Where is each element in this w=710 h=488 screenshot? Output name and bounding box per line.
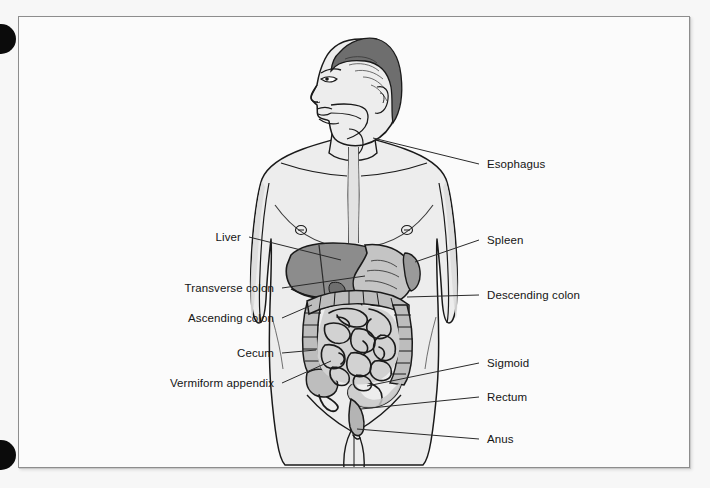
label-liver: Liver <box>216 231 241 243</box>
diagram-page: Esophagus Spleen Descending colon Sigmoi… <box>0 0 710 488</box>
label-sigmoid: Sigmoid <box>487 357 529 369</box>
esophagus-organ <box>348 147 359 243</box>
label-esophagus: Esophagus <box>487 158 545 170</box>
label-cecum: Cecum <box>237 347 274 359</box>
esophagus-fill <box>348 147 359 243</box>
anatomy-illustration <box>19 17 690 468</box>
label-vermiform-appendix: Vermiform appendix <box>170 377 274 389</box>
figure-frame: Esophagus Spleen Descending colon Sigmoi… <box>18 16 690 468</box>
label-anus: Anus <box>487 433 514 445</box>
label-ascending-colon: Ascending colon <box>188 312 274 324</box>
label-transverse-colon: Transverse colon <box>185 282 274 294</box>
label-descending-colon: Descending colon <box>487 289 580 301</box>
label-rectum: Rectum <box>487 391 527 403</box>
label-spleen: Spleen <box>487 234 523 246</box>
